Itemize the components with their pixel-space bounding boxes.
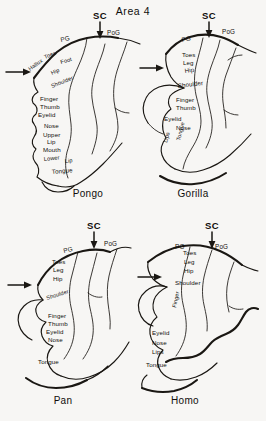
homo-postcentral-crown <box>242 265 258 271</box>
body-part-label-toes: Toes <box>52 258 65 265</box>
body-part-label-shoulder: Shoulder <box>175 279 201 286</box>
body-part-label-nose: Nose <box>152 339 167 346</box>
body-part-label-thumb: Thumb <box>48 320 68 327</box>
body-part-label-tongue: Tongue <box>51 166 73 175</box>
pongo-postcentral-crown <box>118 38 140 44</box>
gorilla-inferior-outline <box>175 134 251 172</box>
body-part-label-eyelid: Eyelid <box>164 115 182 122</box>
homo-inferior-outline <box>171 363 217 380</box>
body-part-label-upper: Upper <box>43 131 60 138</box>
pan-pg-label: PG <box>63 245 74 254</box>
pongo-pg-label: PG <box>60 34 71 43</box>
body-part-label-shoulder: Shoulder <box>45 288 69 301</box>
pan-sc-arrowhead <box>91 241 98 249</box>
gorilla-pg-label: PG <box>181 34 192 43</box>
body-part-label-lip: Lip <box>64 157 72 164</box>
body-part-label-lips: Lips <box>152 348 164 355</box>
gorilla-pog-label: PoG <box>222 28 235 35</box>
body-part-label-thumb: Thumb <box>40 103 60 110</box>
body-part-label-hip: Hip <box>184 267 194 274</box>
homo-base-sulcus <box>142 380 197 392</box>
panel-pan <box>8 232 131 388</box>
pan-pog-label: PoG <box>104 240 117 247</box>
body-part-label-nose: Nose <box>48 336 63 343</box>
body-part-label-finger: Finger <box>48 312 66 319</box>
pan-precentral-band <box>64 252 78 359</box>
body-part-label-nose: Nose <box>44 122 59 129</box>
body-part-label-mouth: Mouth <box>43 146 61 153</box>
caption-gorilla: Gorilla <box>178 188 209 199</box>
gorilla-side-arrowhead <box>156 65 164 72</box>
caption-homo: Homo <box>171 395 199 406</box>
pan-sc-label: SC <box>87 220 101 231</box>
panel-homo <box>138 232 258 392</box>
caption-pan: Pan <box>54 395 73 406</box>
homo-sc-label: SC <box>205 220 219 231</box>
gorilla-base-sulcus <box>160 173 226 184</box>
figure-title: Area 4 <box>116 5 151 17</box>
pan-body-labels: ToesLegHipShoulderFingerThumbEyelidNoseT… <box>38 258 69 365</box>
body-part-label-finger: Finger <box>40 95 58 102</box>
pan-inferior-outline <box>61 342 129 379</box>
body-part-label-shoulder: Shoulder <box>177 79 203 89</box>
panel-pongo <box>6 22 140 192</box>
body-part-label-hip: Hip <box>184 66 195 74</box>
pan-frontal-fold <box>18 300 43 340</box>
body-part-label-finger: Finger <box>176 96 194 103</box>
body-part-label-eyelid: Eyelid <box>38 111 56 118</box>
body-part-label-eyelid: Eyelid <box>46 328 64 335</box>
body-part-label-toes: Toes <box>183 249 196 256</box>
gorilla-body-labels: ToesLegHipShoulderFingerThumbEyelidNoseL… <box>162 51 203 143</box>
gorilla-postcentral-fold <box>206 40 220 148</box>
body-part-label-hip: Hip <box>50 67 60 76</box>
body-part-label-leg: Leg <box>53 266 64 273</box>
body-part-label-eyelid: Eyelid <box>152 329 170 336</box>
gorilla-postcentral-crown <box>238 45 256 53</box>
pongo-sc-label: SC <box>93 10 107 21</box>
body-part-label-tongue: Tongue <box>146 361 167 368</box>
body-part-label-foot: Foot <box>60 56 73 65</box>
gorilla-gyrus-branch-2 <box>224 110 238 115</box>
body-part-label-tongue: Tongue <box>38 358 59 365</box>
gorilla-lateral-gyrus-line <box>223 48 236 128</box>
body-part-label-hip: Hip <box>53 275 63 282</box>
homo-sylvian-fissure <box>166 308 258 362</box>
pan-gyrus-branch <box>88 293 102 297</box>
panel-gorilla <box>140 22 256 184</box>
gorilla-anterior-border <box>161 54 184 169</box>
homo-base-edge <box>142 375 147 388</box>
homo-lateral-gyrus-line <box>227 262 234 312</box>
pan-side-arrowhead <box>24 282 32 289</box>
homo-gyrus-branch <box>229 306 243 309</box>
area-4-somatotopy-figure: Area 4 SC SC SC SC PG PoG PG PoG PG PoG … <box>0 0 266 421</box>
pongo-gyrus-branch <box>115 108 129 113</box>
body-part-label-lower: Lower <box>43 154 59 162</box>
gorilla-sc-label: SC <box>202 10 216 21</box>
body-part-label-lips: Lips <box>162 131 171 143</box>
pan-lateral-gyrus-line <box>107 249 117 329</box>
pongo-lateral-gyrus-line <box>110 42 127 151</box>
body-part-label-thumb: Thumb <box>176 104 196 111</box>
homo-postcentral-fold <box>203 250 213 331</box>
pan-postcentral-crown <box>110 247 131 252</box>
pan-base-edge <box>87 366 108 380</box>
gorilla-frontal-lobe-inner <box>148 123 163 134</box>
pongo-postcentral-fold <box>92 44 105 154</box>
body-part-label-finger: Finger <box>171 291 180 308</box>
pongo-body-labels: ToesFootHalluxHipShoulderFingerThumbEyel… <box>27 50 74 175</box>
caption-pongo: Pongo <box>73 188 104 199</box>
pongo-sc-arrowhead <box>97 31 104 39</box>
homo-side-arrowhead <box>154 274 162 281</box>
gorilla-central-sulcus <box>166 35 238 54</box>
gorilla-gyrus-branch <box>228 55 242 60</box>
body-part-label-toes: Toes <box>182 51 195 58</box>
body-part-label-leg: Leg <box>184 258 195 265</box>
body-part-label-lip: Lip <box>47 138 56 145</box>
homo-pog-label: PoG <box>215 243 228 250</box>
pan-postcentral-fold <box>83 253 97 359</box>
homo-body-labels: ToesLegHipShoulderFingerEyelidNoseLipsTo… <box>146 249 201 368</box>
pongo-pog-label: PoG <box>107 29 120 36</box>
